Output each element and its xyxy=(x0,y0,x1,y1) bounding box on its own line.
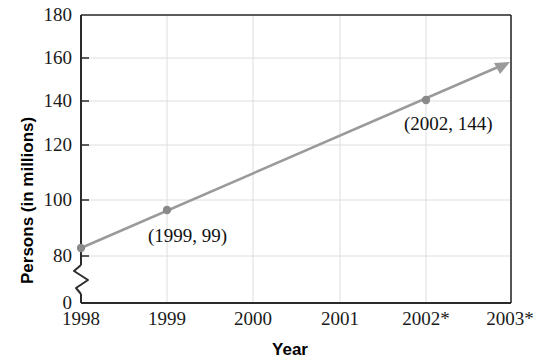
x-tick-label-2001: 2001 xyxy=(296,308,384,330)
y-tick-label-180: 180 xyxy=(14,4,72,26)
x-tick-label-1998: 1998 xyxy=(37,308,125,330)
y-tick-label-120: 120 xyxy=(14,134,72,156)
x-tick-label-2002: 2002* xyxy=(382,308,470,330)
data-point-1999 xyxy=(163,206,171,214)
annotation-2002: (2002, 144) xyxy=(404,113,493,135)
x-tick-label-1999: 1999 xyxy=(123,308,211,330)
annotation-1999: (1999, 99) xyxy=(148,225,227,247)
x-tick-label-2003: 2003* xyxy=(466,308,540,330)
y-tick-marks xyxy=(81,58,89,256)
data-point-2002 xyxy=(422,96,430,104)
data-line xyxy=(81,64,505,248)
line-chart: Persons (in millions) Year 180 160 140 1… xyxy=(0,0,540,363)
y-tick-label-80: 80 xyxy=(14,245,72,267)
x-axis-title: Year xyxy=(240,340,340,360)
axis-break-symbol xyxy=(74,265,88,294)
y-tick-label-100: 100 xyxy=(14,189,72,211)
y-tick-label-160: 160 xyxy=(14,47,72,69)
y-tick-label-140: 140 xyxy=(14,90,72,112)
x-tick-label-2000: 2000 xyxy=(209,308,297,330)
data-point-1998 xyxy=(77,244,85,252)
